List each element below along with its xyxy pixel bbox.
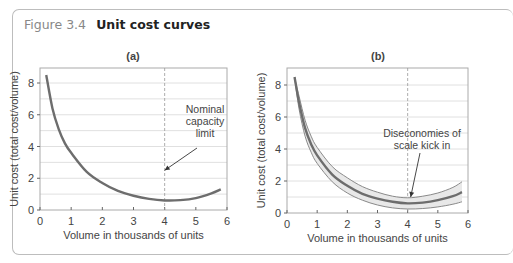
x-tick-label: 3 — [130, 215, 136, 227]
y-tick-label: 4 — [275, 143, 281, 155]
panel-label: (a) — [126, 50, 140, 62]
x-tick-label: 1 — [68, 215, 74, 227]
x-tick-label: 6 — [465, 218, 471, 230]
arrow-head-icon — [409, 192, 414, 197]
x-tick-label: 3 — [374, 218, 380, 230]
x-axis-label: Volume in thousands of units — [63, 229, 204, 241]
panel-label: (b) — [371, 50, 385, 62]
y-axis-label: Unit cost (total cost/volume) — [8, 71, 20, 207]
y-tick-label: 8 — [275, 79, 281, 91]
annotation-text: Nominal — [186, 103, 225, 115]
x-tick-label: 2 — [99, 215, 105, 227]
y-tick-label: 0 — [28, 204, 34, 216]
x-tick-label: 2 — [344, 218, 350, 230]
annotation-text: capacity — [186, 115, 225, 127]
annotation-text: scale kick in — [394, 139, 451, 151]
x-tick-label: 0 — [284, 218, 290, 230]
x-axis-label: Volume in thousands of units — [307, 232, 448, 244]
y-tick-label: 2 — [275, 175, 281, 187]
x-tick-label: 4 — [162, 215, 168, 227]
x-tick-label: 0 — [37, 215, 43, 227]
y-tick-label: 4 — [28, 141, 34, 153]
x-tick-label: 5 — [193, 215, 199, 227]
annotation-arrow — [411, 153, 420, 197]
unit-cost-curve — [46, 75, 221, 201]
y-axis-label: Unit cost (total cost/volume) — [255, 73, 267, 209]
plot-frame — [40, 68, 227, 210]
x-tick-label: 6 — [224, 215, 230, 227]
y-tick-label: 2 — [28, 172, 34, 184]
x-tick-label: 4 — [405, 218, 411, 230]
arrow-head-icon — [165, 165, 171, 170]
y-tick-label: 0 — [275, 207, 281, 219]
annotation-text: limit — [196, 127, 215, 139]
x-tick-label: 5 — [435, 218, 441, 230]
y-tick-label: 6 — [275, 111, 281, 123]
y-tick-label: 6 — [28, 109, 34, 121]
x-tick-label: 1 — [314, 218, 320, 230]
chart-b: (b)024680123456Volume in thousands of un… — [255, 50, 471, 244]
annotation-text: Diseconomies of — [383, 127, 461, 139]
chart-a: (a)024680123456Volume in thousands of un… — [8, 50, 230, 241]
y-tick-label: 8 — [28, 77, 34, 89]
annotation-arrow — [165, 148, 197, 170]
